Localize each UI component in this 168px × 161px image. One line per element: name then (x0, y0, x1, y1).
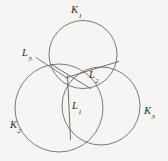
label-k2: K2 (10, 120, 21, 131)
label-l3: L3 (22, 48, 31, 59)
label-l3-sub: 3 (28, 55, 32, 62)
label-l1: L1 (72, 101, 81, 112)
label-k1: K1 (71, 5, 82, 16)
label-l1-sub: 1 (78, 108, 82, 115)
label-l2: L2 (89, 70, 98, 81)
label-k1-sub: 1 (78, 12, 82, 19)
diagram-canvas (0, 0, 168, 161)
figure-container: K1 K2 K3 L1 L2 L3 (0, 0, 168, 161)
label-k3: K3 (144, 106, 155, 117)
label-k3-sub: 3 (151, 113, 155, 120)
label-l2-sub: 2 (95, 77, 99, 84)
label-k2-sub: 2 (17, 127, 21, 134)
